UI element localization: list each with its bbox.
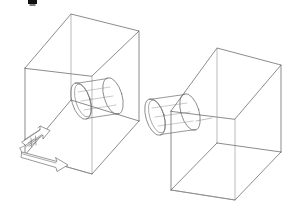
cropped-caption-mark xyxy=(28,0,37,6)
lower-direction-arrow xyxy=(22,152,69,172)
right-box-assembly xyxy=(141,48,281,200)
right-wireframe-box xyxy=(171,48,281,200)
left-box-arrows xyxy=(20,126,68,172)
figure-root: Isometric wireframe assembly drawing Two… xyxy=(0,0,292,220)
technical-drawing-canvas xyxy=(0,0,292,220)
left-box-assembly xyxy=(20,14,139,174)
